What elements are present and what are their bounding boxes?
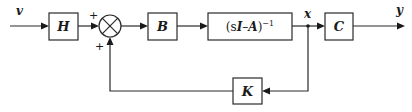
wire-K-to-sum xyxy=(110,43,233,91)
block-C-label: C xyxy=(334,19,345,34)
arrow-into-C xyxy=(317,23,325,30)
output-signal-label: y xyxy=(395,3,404,17)
input-signal-label: v xyxy=(16,4,24,18)
block-B-label: B xyxy=(156,19,168,34)
sum-sign-top: + xyxy=(89,9,98,22)
block-diagram: v H + B (sI–A)−1 x C y K + xyxy=(0,0,412,112)
arrow-into-sum xyxy=(91,23,99,30)
arrow-into-K xyxy=(262,88,270,95)
sum-sign-bottom: + xyxy=(95,40,104,53)
summing-junction xyxy=(99,15,121,37)
block-H-label: H xyxy=(56,19,70,34)
block-K-label: K xyxy=(241,84,254,99)
arrow-feedback-into-sum xyxy=(107,37,114,45)
state-signal-label: x xyxy=(303,7,312,21)
arrow-into-H xyxy=(41,23,49,30)
arrow-output xyxy=(397,23,405,30)
arrow-into-B xyxy=(140,23,148,30)
arrow-into-resolvent xyxy=(200,23,208,30)
